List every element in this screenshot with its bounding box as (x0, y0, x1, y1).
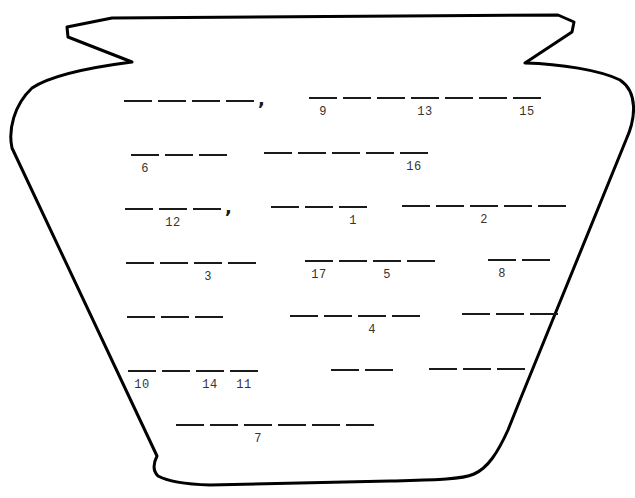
letter-blank[interactable] (309, 97, 337, 99)
letter-blank[interactable] (332, 152, 360, 154)
letter-blank[interactable] (244, 424, 272, 426)
answer-word: 2 (402, 205, 572, 235)
clue-number: 4 (360, 323, 384, 337)
letter-blank[interactable] (331, 369, 359, 371)
answer-word: 1 (271, 206, 373, 236)
answer-word: 6 (131, 154, 233, 184)
answer-word: , (124, 100, 260, 130)
answer-word: 12, (125, 208, 227, 238)
letter-blank[interactable] (264, 152, 292, 154)
letter-blank[interactable] (358, 315, 386, 317)
letter-blank[interactable] (271, 206, 299, 208)
letter-blank[interactable] (128, 370, 156, 372)
letter-blank[interactable] (324, 315, 352, 317)
letter-blank[interactable] (176, 424, 204, 426)
answer-word: 4 (290, 315, 426, 345)
clue-number: 14 (198, 378, 222, 392)
clue-number: 8 (490, 267, 514, 281)
letter-blank[interactable] (210, 424, 238, 426)
letter-blank[interactable] (436, 205, 464, 207)
answer-word: 3 (126, 262, 262, 292)
letter-blank[interactable] (343, 97, 371, 99)
letter-blank[interactable] (366, 152, 394, 154)
letter-blank[interactable] (470, 205, 498, 207)
letter-blank[interactable] (158, 100, 186, 102)
letter-blank[interactable] (400, 152, 428, 154)
letter-blank[interactable] (407, 260, 435, 262)
letter-blank[interactable] (278, 424, 306, 426)
clue-number: 9 (311, 105, 335, 119)
letter-blank[interactable] (462, 313, 490, 315)
answer-word (429, 368, 531, 398)
letter-blank[interactable] (373, 260, 401, 262)
letter-blank[interactable] (392, 315, 420, 317)
letter-blank[interactable] (131, 154, 159, 156)
letter-blank[interactable] (513, 97, 541, 99)
letter-blank[interactable] (488, 259, 516, 261)
letter-blank[interactable] (504, 205, 532, 207)
clue-number: 1 (341, 214, 365, 228)
answer-word: 8 (488, 259, 556, 289)
clue-number: 6 (133, 162, 157, 176)
clue-number: 15 (515, 105, 539, 119)
letter-blank[interactable] (228, 262, 256, 264)
letter-blank[interactable] (496, 313, 524, 315)
letter-blank[interactable] (161, 316, 189, 318)
clue-number: 16 (402, 160, 426, 174)
letter-blank[interactable] (159, 208, 187, 210)
letter-blank[interactable] (346, 424, 374, 426)
letter-blank[interactable] (429, 368, 457, 370)
letter-blank[interactable] (538, 205, 566, 207)
letter-blank[interactable] (479, 97, 507, 99)
letter-blank[interactable] (339, 260, 367, 262)
letter-blank[interactable] (339, 206, 367, 208)
letter-blank[interactable] (193, 208, 221, 210)
clue-number: 7 (246, 432, 270, 446)
letter-blank[interactable] (196, 370, 224, 372)
answer-word (331, 369, 399, 399)
letter-blank[interactable] (530, 313, 558, 315)
letter-blank[interactable] (305, 260, 333, 262)
clue-number: 5 (375, 268, 399, 282)
letter-blank[interactable] (125, 208, 153, 210)
letter-blank[interactable] (199, 154, 227, 156)
letter-blank[interactable] (230, 370, 258, 372)
letter-blank[interactable] (290, 315, 318, 317)
letter-blank[interactable] (463, 368, 491, 370)
letter-blank[interactable] (522, 259, 550, 261)
letter-blank[interactable] (165, 154, 193, 156)
clue-number: 10 (130, 378, 154, 392)
clue-number: 13 (413, 105, 437, 119)
clue-number: 12 (161, 216, 185, 230)
answer-word (127, 316, 229, 346)
answer-word: 101411 (128, 370, 264, 400)
letter-blank[interactable] (402, 205, 430, 207)
comma-punctuation: , (225, 196, 232, 217)
letter-blank[interactable] (312, 424, 340, 426)
clue-number: 2 (472, 213, 496, 227)
letter-blank[interactable] (126, 262, 154, 264)
letter-blank[interactable] (194, 262, 222, 264)
letter-blank[interactable] (162, 370, 190, 372)
letter-blank[interactable] (298, 152, 326, 154)
letter-blank[interactable] (226, 100, 254, 102)
letter-blank[interactable] (497, 368, 525, 370)
letter-blank[interactable] (195, 316, 223, 318)
answer-word: 175 (305, 260, 441, 290)
clue-number: 3 (196, 270, 220, 284)
clue-number: 17 (307, 268, 331, 282)
answer-word: 7 (176, 424, 380, 454)
letter-blank[interactable] (377, 97, 405, 99)
letter-blank[interactable] (127, 316, 155, 318)
answer-word: 16 (264, 152, 434, 182)
letter-blank[interactable] (160, 262, 188, 264)
letter-blank[interactable] (365, 369, 393, 371)
vase-cryptogram-worksheet: ,9131561612,123175841014117 (0, 0, 635, 498)
comma-punctuation: , (258, 88, 265, 109)
letter-blank[interactable] (305, 206, 333, 208)
letter-blank[interactable] (192, 100, 220, 102)
letter-blank[interactable] (445, 97, 473, 99)
letter-blank[interactable] (411, 97, 439, 99)
letter-blank[interactable] (124, 100, 152, 102)
clue-number: 11 (232, 378, 256, 392)
